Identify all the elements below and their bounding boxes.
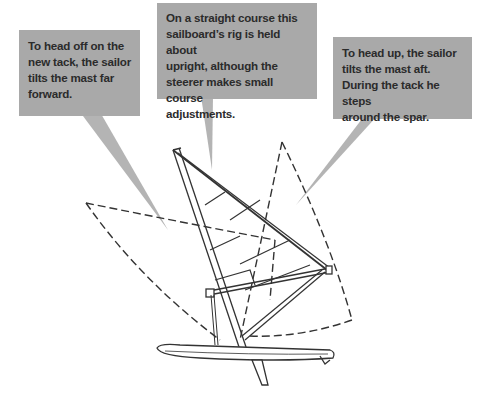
callout-line: upright, although the [166,58,309,74]
callout-line: around the spar. [342,109,464,125]
callout-straight-course: On a straight course this sailboard’s ri… [157,3,317,99]
callout-line: On a straight course this [166,10,309,26]
pointer-left [80,112,168,230]
callout-line: To head up, the sailor [342,45,464,61]
callout-line: adjustments. [166,106,309,122]
fin [252,360,268,385]
callout-head-up: To head up, the sailor tilts the mast af… [333,37,472,119]
pointer-right [296,115,378,205]
callout-line: sailboard’s rig is held about [166,26,309,58]
callout-line: new tack, the sailor [28,54,132,70]
sail-upright [173,150,330,340]
board [157,344,334,364]
callout-head-off: To head off on the new tack, the sailor … [19,30,140,116]
callout-line: To head off on the [28,38,132,54]
callout-line: forward. [28,86,132,102]
callout-line: tilts the mast far [28,70,132,86]
callout-line: During the tack he steps [342,77,464,109]
sail-aft-tilted [240,142,352,340]
uphaul-line [211,295,218,345]
callout-line: steerer makes small course [166,74,309,106]
callout-line: tilts the mast aft. [342,61,464,77]
